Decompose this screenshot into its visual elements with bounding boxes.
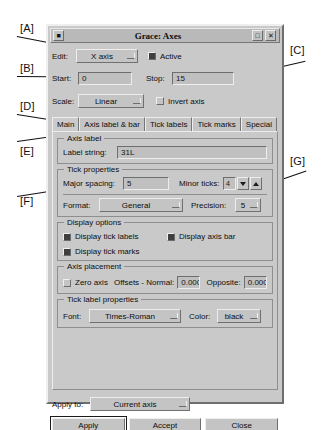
display-axis-bar-checkbox[interactable] — [167, 233, 175, 241]
major-spacing-label: Major spacing: — [63, 179, 123, 188]
apply-to-dropdown[interactable]: Current axis — [90, 397, 190, 411]
format-row: Format: General Precision: 5 — [63, 198, 267, 212]
offset-normal-value: 0.0000 — [181, 278, 200, 287]
opposite-label: Opposite: — [206, 278, 240, 287]
divider — [63, 194, 267, 195]
zero-axis-label: Zero axis — [75, 278, 108, 287]
minor-ticks-stepper[interactable]: 4 — [223, 177, 262, 190]
window-menu-icon[interactable]: ■ — [53, 30, 64, 41]
format-value: General — [102, 201, 170, 210]
invert-axis-label: Invert axis — [168, 97, 204, 106]
apply-button[interactable]: Apply — [52, 418, 125, 430]
active-checkbox[interactable] — [148, 52, 156, 60]
axis-placement-group: Axis placement Zero axis Offsets - Norma… — [57, 266, 273, 294]
active-label: Active — [160, 52, 182, 61]
display-tick-marks-checkbox[interactable] — [63, 248, 71, 256]
start-value: 0 — [82, 74, 86, 83]
stop-input[interactable]: 15 — [172, 72, 234, 85]
chevron-down-icon — [127, 53, 135, 59]
format-label: Format: — [63, 201, 99, 210]
label-string-input[interactable]: 31L — [117, 146, 267, 159]
start-input[interactable]: 0 — [78, 72, 132, 85]
apply-to-row: Apply to: Current axis — [52, 397, 278, 411]
apply-to-value: Current axis — [93, 400, 177, 409]
stepper-up-button[interactable] — [250, 177, 262, 190]
display-axis-bar-label: Display axis bar — [179, 232, 235, 241]
tab-main[interactable]: Main — [52, 117, 79, 131]
scale-label: Scale: — [52, 97, 78, 106]
range-row: Start: 0 Stop: 15 — [52, 72, 278, 85]
tick-properties-group: Tick properties Major spacing: 5 Minor t… — [57, 169, 273, 217]
major-spacing-value: 5 — [127, 179, 131, 188]
main-tab-panel: Axis label Label string: 31L Tick proper… — [52, 131, 278, 390]
offset-opposite-input[interactable]: 0.0000 — [244, 276, 267, 289]
axis-label-group: Axis label Label string: 31L — [57, 138, 273, 164]
tick-properties-group-title: Tick properties — [64, 165, 122, 174]
window-titlebar[interactable]: ■ Grace: Axes □ ✕ — [50, 28, 280, 43]
tab-strip: Main Axis label & bar Tick labels Tick m… — [52, 116, 278, 131]
edit-label: Edit: — [52, 52, 76, 61]
maximize-icon[interactable]: □ — [252, 30, 263, 41]
label-string-row: Label string: 31L — [63, 146, 267, 159]
start-label: Start: — [52, 74, 78, 83]
window-title: Grace: Axes — [65, 31, 251, 41]
screenshot-root: [A] [B] [C] [D] [E] [F] [G] ■ Grace: Axe… — [0, 0, 330, 430]
display-options-row-1: Display tick labels Display axis bar — [63, 232, 267, 241]
edit-axis-dropdown[interactable]: X axis — [76, 49, 138, 63]
invert-axis-checkbox[interactable] — [156, 97, 164, 105]
label-string-value: 31L — [121, 148, 134, 157]
precision-dropdown[interactable]: 5 — [235, 198, 261, 212]
dialog-button-row: Apply Accept Close — [52, 418, 278, 430]
stop-value: 15 — [176, 74, 185, 83]
edit-axis-value: X axis — [79, 52, 125, 61]
tab-special[interactable]: Special — [241, 117, 277, 131]
scale-value: Linear — [81, 97, 131, 106]
display-tick-labels-checkbox[interactable] — [63, 233, 71, 241]
offset-normal-input[interactable]: 0.0000 — [177, 276, 200, 289]
font-label: Font: — [63, 312, 89, 321]
dialog-client-area: Edit: X axis Active Start: 0 Stop: 15 — [52, 47, 278, 398]
edit-row: Edit: X axis Active — [52, 49, 278, 63]
triangle-up-icon — [253, 182, 259, 186]
color-value: black — [220, 312, 248, 321]
axis-placement-row: Zero axis Offsets - Normal: 0.0000 Oppos… — [63, 276, 267, 289]
accept-button[interactable]: Accept — [129, 418, 202, 430]
chevron-down-icon — [172, 202, 180, 208]
tab-tick-marks[interactable]: Tick marks — [192, 117, 240, 131]
scale-row: Scale: Linear Invert axis — [52, 94, 278, 108]
apply-to-label: Apply to: — [52, 400, 90, 409]
chevron-down-icon — [250, 202, 258, 208]
close-button[interactable]: Close — [205, 418, 278, 430]
minor-ticks-label: Minor ticks: — [179, 179, 223, 188]
annotation-label-a: [A] — [20, 22, 34, 34]
display-options-group-title: Display options — [64, 218, 124, 227]
tick-label-properties-group-title: Tick label properties — [64, 295, 141, 304]
chevron-down-icon — [133, 98, 141, 104]
display-tick-labels-label: Display tick labels — [75, 232, 139, 241]
tab-tick-labels[interactable]: Tick labels — [145, 117, 193, 131]
close-icon[interactable]: ✕ — [265, 30, 276, 41]
scale-dropdown[interactable]: Linear — [78, 94, 144, 108]
minor-ticks-value[interactable]: 4 — [223, 177, 236, 190]
font-dropdown[interactable]: Times-Roman — [89, 309, 181, 323]
label-string-label: Label string: — [63, 148, 117, 157]
color-dropdown[interactable]: black — [217, 309, 261, 323]
annotation-label-b: [B] — [20, 62, 34, 74]
stop-label: Stop: — [146, 74, 172, 83]
display-options-group: Display options Display tick labels Disp… — [57, 222, 273, 261]
tick-label-properties-group: Tick label properties Font: Times-Roman … — [57, 299, 273, 328]
color-label: Color: — [189, 312, 217, 321]
annotation-label-g: [G] — [290, 155, 305, 167]
axis-placement-group-title: Axis placement — [64, 262, 124, 271]
chevron-down-icon — [250, 313, 258, 319]
format-dropdown[interactable]: General — [99, 198, 183, 212]
major-spacing-input[interactable]: 5 — [123, 177, 169, 190]
chevron-down-icon — [170, 313, 178, 319]
offset-opposite-value: 0.0000 — [248, 278, 267, 287]
tab-axis-label-and-bar[interactable]: Axis label & bar — [79, 117, 145, 131]
stepper-down-button[interactable] — [237, 177, 249, 190]
annotation-label-e: [E] — [20, 145, 34, 157]
zero-axis-checkbox[interactable] — [63, 279, 71, 287]
offsets-normal-label: Offsets - Normal: — [114, 278, 174, 287]
axes-dialog-window: ■ Grace: Axes □ ✕ Edit: X axis Active — [46, 24, 284, 404]
